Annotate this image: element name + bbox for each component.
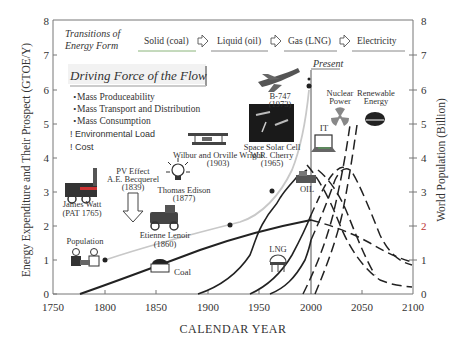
y-tick: 2 (44, 220, 50, 232)
biplane-icon (188, 133, 228, 145)
present-label: Present (312, 58, 343, 69)
annotation-lng: LNG (269, 244, 286, 254)
form-solid: Solid (coal) (144, 36, 189, 47)
form-gas: Gas (LNG) (288, 36, 331, 47)
y-axis-left (53, 55, 57, 294)
annotation-coal: Coal (174, 267, 191, 277)
transitions-title: Transitions of (65, 28, 122, 39)
annotation-b747: (1973) (269, 99, 292, 109)
bullet: ! (70, 142, 73, 152)
arrow-right-icon (340, 35, 350, 47)
driving-force-panel: Driving Force of the Flow ・ Mass Produce… (68, 64, 207, 152)
x-tick: 2100 (402, 301, 425, 313)
steam-engine-icon (65, 168, 97, 203)
people-icon (71, 249, 99, 267)
lng-prospect-curve (311, 169, 412, 265)
transitions-header: Transitions of Energy Form Solid (coal) … (64, 28, 405, 51)
form-liquid: Liquid (oil) (217, 36, 261, 47)
y-tick: 5 (44, 118, 50, 130)
y-tick: 8 (44, 15, 50, 27)
energy-chart: 0 1 2 3 4 5 6 7 8 0 1 2 3 4 5 6 7 8 (0, 0, 469, 351)
y2-tick: 8 (421, 15, 427, 27)
space-solar-cell-image (249, 104, 294, 142)
y-axis-label: Energy Expenditure and Their Prospect (G… (20, 43, 33, 277)
x-tick: 1750 (42, 301, 65, 313)
annotation-oil: OIL (300, 184, 314, 194)
y2-tick: 6 (421, 84, 427, 96)
annotation-renewable: Energy (364, 96, 389, 106)
driving-force-item: Mass Transport and Distribution (77, 104, 200, 114)
transitions-title: Energy Form (64, 40, 118, 51)
earth-icon (365, 112, 385, 126)
y-tick: 3 (44, 186, 50, 198)
y-tick: 7 (44, 49, 50, 61)
oil-prospect-curve (307, 165, 412, 287)
driving-force-item: Environmental Load (75, 129, 155, 139)
x-axis-label: CALENDAR YEAR (179, 322, 286, 336)
x-axis (105, 290, 362, 294)
annotation-population: Population (67, 236, 105, 246)
x-tick: 2050 (351, 301, 374, 313)
x-tick: 1900 (197, 301, 220, 313)
light-bulb-icon (166, 158, 190, 180)
y2-tick: 4 (421, 152, 427, 164)
y2-tick: 2 (421, 220, 427, 232)
x-tick: 1850 (145, 301, 168, 313)
annotation-james-watt: (PAT 1765) (63, 208, 102, 218)
lng-prospect-curve-b (311, 167, 345, 215)
car-icon (150, 205, 178, 230)
laptop-icon (311, 135, 336, 152)
x-tick: 2000 (300, 301, 323, 313)
airplane-icon (258, 68, 300, 92)
down-arrow-icon (123, 193, 143, 222)
annotation-edison: (1877) (173, 193, 196, 203)
x-tick: 1800 (94, 301, 117, 313)
annotation-pv-effect: (1839) (122, 182, 145, 192)
x-tick: 1950 (248, 301, 271, 313)
annotation-nuclear: Power (329, 96, 351, 106)
form-electricity: Electricity (357, 36, 397, 46)
driving-force-item: Cost (75, 142, 94, 152)
lng-tank-icon (270, 255, 286, 272)
coal-cart-icon (151, 259, 169, 272)
y2-tick: 3 (421, 186, 427, 198)
y2-tick: 0 (421, 288, 427, 300)
y-tick: 1 (44, 254, 50, 266)
arrow-right-icon (271, 35, 281, 47)
y2-tick: 5 (421, 118, 427, 130)
y2-tick: 7 (421, 49, 427, 61)
driving-force-item: Mass Produceability (77, 92, 155, 102)
driving-force-item: Mass Consumption (77, 116, 151, 126)
driving-force-title: Driving Force of the Flow (69, 68, 207, 83)
annotation-lenoir: (1860) (154, 239, 177, 249)
y-tick: 6 (44, 84, 50, 96)
radiation-icon (331, 107, 349, 126)
y-tick: 0 (44, 288, 50, 300)
annotation-solar-cell: (1965) (261, 158, 284, 168)
y2-tick: 1 (421, 254, 427, 266)
oil-curve (198, 170, 307, 294)
coal-prospect-curve (311, 220, 412, 262)
arrow-right-icon (198, 35, 208, 47)
bullet: ! (70, 129, 73, 139)
y-tick: 4 (44, 152, 50, 164)
annotation-wright: (1903) (207, 158, 230, 168)
annotation-it: IT (320, 123, 329, 133)
it-curve (318, 170, 375, 275)
y2-axis-label: World Population (Billion) (435, 98, 448, 222)
